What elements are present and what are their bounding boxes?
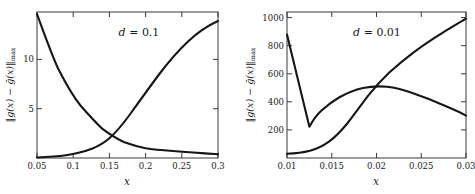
y-ticks-left: [37, 59, 218, 108]
x-axis-label: x: [373, 175, 379, 187]
title-equals: =: [364, 26, 373, 39]
x-axis-label: x: [124, 175, 130, 187]
y-tick-label: 400: [268, 97, 284, 107]
series-v-shaped-curve-right: [287, 35, 466, 127]
y-tick-label: 10: [23, 54, 34, 64]
svg-text:‖g(x) − ḡ(x)‖max: ‖g(x) − ḡ(x)‖max: [244, 47, 257, 122]
ylabel-subscript: max: [9, 47, 17, 61]
y-tick-label: 1000: [262, 13, 284, 23]
x-tick-label: 0.1: [66, 161, 80, 171]
y-tick-label: 800: [268, 41, 284, 51]
chart-panel-right: 0.01 0.015 0.02 0.025 0.03 200 400 600 8…: [237, 0, 475, 194]
x-tick-label: 0.3: [211, 161, 225, 171]
x-tick-label: 0.15: [100, 161, 119, 171]
y-tick-label: 5: [29, 104, 34, 114]
x-tick-label: 0.015: [320, 161, 344, 171]
title-symbol: d: [353, 26, 360, 39]
figure-container: 0.05 0.1 0.15 0.2 0.25 0.3 5 10 x ‖g(x) …: [0, 0, 475, 194]
title-symbol: d: [119, 26, 126, 39]
y-tick-label: 600: [268, 69, 284, 79]
ylabel-minus: −: [4, 88, 15, 96]
y-axis-label: ‖g(x) − ḡ(x)‖max: [4, 47, 17, 122]
x-tick-label: 0.03: [457, 161, 475, 171]
x-tick-label: 0.025: [409, 161, 433, 171]
plot-left-svg: 0.05 0.1 0.15 0.2 0.25 0.3 5 10 x ‖g(x) …: [0, 0, 237, 194]
chart-panel-left: 0.05 0.1 0.15 0.2 0.25 0.3 5 10 x ‖g(x) …: [0, 0, 237, 194]
panel-title-left: d = 0.1: [119, 26, 160, 39]
ylabel-arg2: (x): [244, 66, 255, 79]
x-tick-label: 0.25: [172, 161, 191, 171]
title-equals: =: [129, 26, 138, 39]
ylabel-subscript: max: [249, 47, 257, 61]
ylabel-arg1: (x): [4, 99, 15, 112]
x-tick-label: 0.05: [28, 161, 47, 171]
title-value: 0.01: [376, 26, 401, 39]
x-tick-label: 0.02: [367, 161, 386, 171]
x-tick-label: 0.2: [139, 161, 153, 171]
ylabel-minus: −: [244, 88, 255, 96]
ylabel-arg2: (x): [4, 66, 15, 79]
svg-text:‖g(x) − ḡ(x)‖max: ‖g(x) − ḡ(x)‖max: [4, 47, 17, 122]
plot-right-svg: 0.01 0.015 0.02 0.025 0.03 200 400 600 8…: [237, 0, 475, 194]
panel-title-right: d = 0.01: [353, 26, 401, 39]
title-value: 0.1: [142, 26, 160, 39]
series-rising-curve-left: [37, 21, 218, 158]
x-tick-label: 0.01: [278, 161, 297, 171]
y-tick-label: 200: [268, 125, 284, 135]
y-axis-label: ‖g(x) − ḡ(x)‖max: [244, 47, 257, 122]
ylabel-arg1: (x): [244, 99, 255, 112]
